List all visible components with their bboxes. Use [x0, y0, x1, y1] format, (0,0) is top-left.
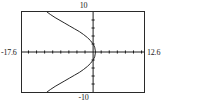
graphing-calculator-screen: 10 -17.6 12.6 -10: [0, 0, 197, 104]
plot-canvas: [22, 12, 144, 92]
x-max-label: 12.6: [147, 48, 160, 57]
x-min-label: -17.6: [1, 48, 17, 57]
y-max-label: 10: [0, 1, 167, 10]
y-min-label: -10: [0, 93, 167, 102]
plot-frame: [21, 11, 145, 93]
